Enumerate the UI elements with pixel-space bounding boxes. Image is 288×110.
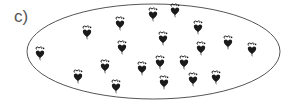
heart-with-bow-icon — [197, 42, 206, 55]
heart-with-bow-icon — [101, 60, 110, 73]
heart-with-bow-icon — [149, 8, 158, 21]
heart-with-bow-icon — [224, 36, 233, 49]
heart-with-bow-icon — [83, 26, 92, 39]
heart-with-bow-icon — [118, 41, 127, 54]
heart-with-bow-icon — [116, 17, 125, 30]
heart-with-bow-icon — [112, 80, 121, 93]
heart-with-bow-icon — [159, 32, 168, 45]
heart-with-bow-icon — [36, 47, 45, 60]
heart-with-bow-icon — [160, 76, 169, 89]
heart-with-bow-icon — [212, 71, 221, 84]
heart-with-bow-icon — [138, 62, 147, 75]
heart-with-bow-icon — [180, 56, 189, 69]
heart-with-bow-icon — [248, 43, 257, 56]
heart-with-bow-icon — [194, 21, 203, 34]
heart-with-bow-icon — [189, 73, 198, 86]
heart-with-bow-icon — [74, 70, 83, 83]
set-diagram — [0, 0, 288, 110]
heart-with-bow-icon — [171, 4, 180, 17]
items-group — [36, 4, 257, 93]
heart-with-bow-icon — [156, 56, 165, 69]
